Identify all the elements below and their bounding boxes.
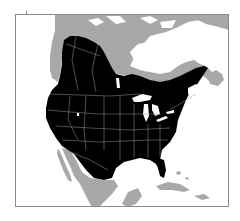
map-frame [15,14,229,207]
